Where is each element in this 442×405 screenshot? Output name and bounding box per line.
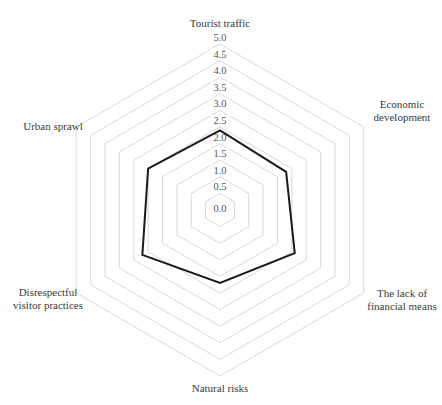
category-label: Economicdevelopment: [374, 98, 431, 123]
tick-label: 2.5: [213, 115, 226, 126]
tick-label: 3.5: [213, 82, 226, 93]
category-label: Tourist traffic: [190, 17, 251, 29]
tick-label: 4.5: [213, 49, 226, 60]
radial-tick-labels: 0.00.51.01.52.02.53.03.54.04.55.0: [211, 32, 229, 214]
category-label: Disrespectfulvisitor practices: [13, 286, 83, 311]
tick-label: 0.0: [213, 203, 226, 214]
radar-chart: 0.00.51.01.52.02.53.03.54.04.55.0 Touris…: [0, 0, 442, 405]
tick-label: 5.0: [213, 32, 226, 43]
category-label: Natural risks: [192, 382, 249, 394]
category-label: Urban sprawl: [23, 120, 83, 132]
tick-label: 1.5: [213, 148, 226, 159]
tick-label: 0.5: [213, 181, 226, 192]
category-label: The lack offinancial means: [367, 287, 436, 312]
tick-label: 3.0: [213, 98, 226, 109]
tick-label: 4.0: [213, 65, 226, 76]
tick-label: 1.0: [213, 165, 226, 176]
